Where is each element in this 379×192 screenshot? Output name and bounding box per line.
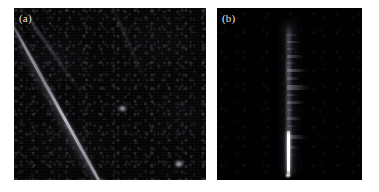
- kymograph-streak: [287, 41, 302, 43]
- bright-white-trace: [287, 131, 290, 176]
- panel-a-label: (a): [19, 12, 32, 24]
- panel-a-image: (a): [14, 8, 206, 180]
- kymograph-streak: [287, 77, 301, 80]
- figure-root: (a) (b): [0, 0, 379, 192]
- filament-bright-node-lower: [174, 160, 184, 168]
- kymograph-streak: [287, 85, 311, 90]
- kymograph-streak: [287, 62, 297, 64]
- kymograph-streak: [287, 117, 303, 120]
- kymograph-vertical-track: [281, 26, 299, 170]
- kymograph-streak: [287, 69, 309, 72]
- kymograph-streak: [287, 94, 299, 96]
- kymograph-streak: [287, 101, 306, 104]
- panel-b-kymograph: (b): [217, 8, 362, 180]
- kymograph-streak: [287, 34, 299, 36]
- kymograph-streak: [287, 109, 296, 111]
- kymograph-streak: [287, 48, 297, 50]
- kymograph-streak: [287, 135, 308, 139]
- panel-b-label: (b): [222, 12, 235, 24]
- bright-trace-endpoint: [285, 173, 291, 178]
- filament-bright-node-upper: [118, 105, 127, 112]
- kymograph-streak: [287, 55, 305, 58]
